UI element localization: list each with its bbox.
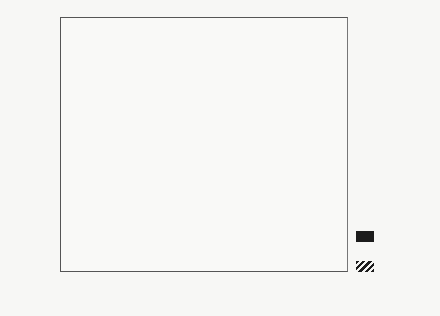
solid-swatch-icon (356, 231, 374, 242)
legend-item-landmark (356, 231, 377, 242)
legend-item-ordinary (356, 261, 377, 272)
plot-area (60, 17, 348, 272)
hatched-swatch-icon (356, 261, 374, 272)
